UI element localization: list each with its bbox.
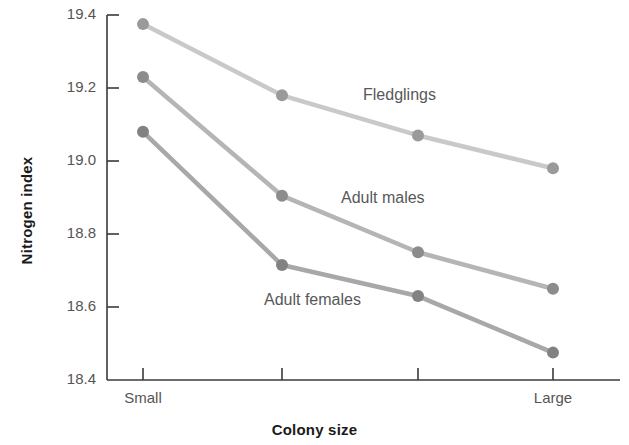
series-label-fledglings: Fledglings [363, 86, 436, 104]
data-point [412, 129, 424, 141]
data-point [276, 259, 288, 271]
series-line [143, 132, 553, 353]
y-axis-ticks [107, 15, 119, 307]
data-point [412, 246, 424, 258]
y-tick-label-19-2: 19.2 [36, 78, 96, 95]
series-label-adult-males: Adult males [341, 189, 425, 207]
y-tick-label-18-4: 18.4 [36, 370, 96, 387]
x-tick-label-large: Large [493, 389, 613, 406]
series-adult-females [137, 126, 559, 359]
y-tick-label-18-8: 18.8 [36, 224, 96, 241]
x-axis-title: Colony size [0, 421, 629, 438]
series-fledglings [137, 18, 559, 174]
data-point [276, 89, 288, 101]
series-adult-males [137, 71, 559, 295]
y-tick-label-18-6: 18.6 [36, 297, 96, 314]
data-point [547, 162, 559, 174]
data-point [276, 190, 288, 202]
y-tick-label-19-0: 19.0 [36, 151, 96, 168]
y-axis-title: Nitrogen index [18, 131, 35, 291]
y-tick-label-19-4: 19.4 [36, 5, 96, 22]
x-axis-ticks [143, 368, 553, 380]
data-point [412, 290, 424, 302]
data-point [137, 18, 149, 30]
data-point [137, 71, 149, 83]
series-line [143, 77, 553, 289]
series-label-adult-females: Adult females [264, 291, 361, 309]
x-tick-label-small: Small [83, 389, 203, 406]
nitrogen-index-line-chart: Nitrogen index Colony size 19.4 19.2 19.… [0, 0, 629, 445]
data-point [547, 283, 559, 295]
data-point [137, 126, 149, 138]
series-line [143, 24, 553, 168]
data-point [547, 347, 559, 359]
